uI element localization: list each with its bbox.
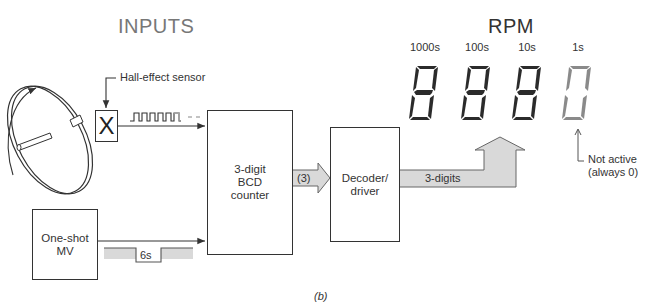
not-active-annotation: Not active (always 0) bbox=[588, 153, 638, 179]
pulse-width-label: 6s bbox=[140, 249, 152, 261]
figure-caption: (b) bbox=[314, 290, 327, 302]
decoder-line-2: driver bbox=[342, 185, 389, 198]
sensor-x-icon: X bbox=[98, 112, 114, 140]
digit-label-1s: 1s bbox=[553, 41, 603, 53]
rotating-disk-icon bbox=[0, 73, 109, 207]
pulse-train-icon bbox=[130, 113, 200, 121]
counter-line-3: counter bbox=[231, 189, 269, 202]
bcd-counter-block: 3-digit BCD counter bbox=[207, 110, 293, 255]
digit-label-1000s: 1000s bbox=[400, 41, 450, 53]
oneshot-line-2: MV bbox=[41, 245, 88, 258]
digit-label-100s: 100s bbox=[452, 41, 502, 53]
bus-digits-label: 3-digits bbox=[425, 172, 460, 184]
seven-segment-digits bbox=[409, 66, 591, 120]
hall-effect-sensor: X bbox=[95, 110, 118, 142]
bus-count-label: (3) bbox=[297, 172, 310, 184]
digit-label-10s: 10s bbox=[502, 41, 552, 53]
annotation-line-1: Not active bbox=[588, 153, 638, 166]
decoder-driver-block: Decoder/ driver bbox=[330, 127, 400, 242]
hall-sensor-label: Hall-effect sensor bbox=[120, 71, 205, 83]
one-shot-mv-block: One-shot MV bbox=[32, 209, 98, 280]
counter-line-1: 3-digit bbox=[231, 163, 269, 176]
annotation-line-2: (always 0) bbox=[588, 166, 638, 179]
oneshot-line-1: One-shot bbox=[41, 232, 88, 245]
counter-line-2: BCD bbox=[231, 176, 269, 189]
decoder-line-1: Decoder/ bbox=[342, 172, 389, 185]
